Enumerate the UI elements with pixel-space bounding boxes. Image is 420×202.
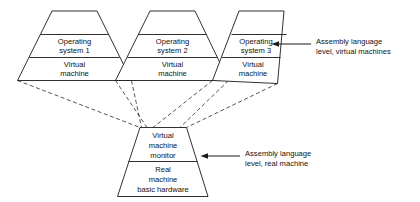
base-monitor-line1: Virtual [152, 131, 174, 140]
virtual-machine-diagram: Operating system 1 Virtual machine Opera… [0, 0, 420, 202]
dashed-link-vm1-right [132, 81, 142, 128]
vm-3-block: Operating system 3 Virtual machine [213, 11, 287, 84]
dashed-link-vm2-right [180, 81, 229, 128]
vm-1-vm-line1: Virtual [64, 60, 86, 69]
base-block: Virtual machine monitor Real machine bas… [118, 128, 209, 197]
base-hardware-line3: basic hardware [137, 185, 189, 194]
vm-1-block: Operating system 1 Virtual machine [18, 11, 132, 81]
vm-1-os-line2: system 1 [59, 46, 89, 55]
vm-2-vm-line2: machine [158, 69, 187, 78]
base-hardware-line2: machine [149, 175, 178, 184]
vm-2-block: Operating system 2 Virtual machine [116, 11, 229, 81]
vm-3-vm-line1: Virtual [242, 60, 264, 69]
callout-real-machine-line2: level, real machine [245, 159, 308, 168]
callout-real-machine-arrowhead [201, 153, 209, 159]
dashed-link-vm3-left [153, 81, 213, 128]
dashed-link-vm2-left [116, 81, 148, 128]
vm-3-os-line2: system 3 [241, 46, 271, 55]
vm-1-vm-line2: machine [60, 69, 89, 78]
dashed-link-vm1-left [18, 81, 141, 128]
vm-3-vm-line2: machine [239, 69, 268, 78]
base-hardware-line1: Real [155, 165, 171, 174]
dashed-link-group [18, 81, 278, 128]
vm-2-vm-line1: Virtual [162, 60, 184, 69]
callout-real-machine-line1: Assembly language [245, 149, 311, 158]
callout-virtual-machines: Assembly language level, virtual machine… [272, 37, 391, 57]
callout-virtual-machines-line1: Assembly language [316, 37, 382, 46]
callout-real-machine: Assembly language level, real machine [201, 149, 312, 169]
base-monitor-line2: machine [149, 141, 178, 150]
vm-1-os-line1: Operating [58, 37, 91, 46]
vm-2-os-line2: system 2 [157, 46, 187, 55]
diagram-canvas: Operating system 1 Virtual machine Opera… [0, 0, 420, 202]
vm-3-os-line1: Operating [239, 37, 272, 46]
callout-virtual-machines-line2: level, virtual machines [316, 47, 391, 56]
vm-2-os-line1: Operating [156, 37, 189, 46]
base-monitor-line3: monitor [150, 151, 176, 160]
